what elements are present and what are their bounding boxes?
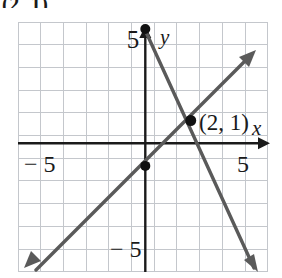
x-tick-label-neg5: − 5 <box>24 151 56 177</box>
y-axis-label: y <box>158 25 170 49</box>
plot-background <box>18 22 268 272</box>
y-tick-label-neg5: − 5 <box>110 236 142 262</box>
point-y-intercept-5 <box>140 24 150 34</box>
x-axis-label: x <box>251 116 262 140</box>
point-intersection <box>185 115 196 126</box>
y-tick-label-5: 5 <box>127 26 140 53</box>
point-y-intercept-neg1 <box>140 161 150 171</box>
coordinate-plane-graph: 5 y − 5 5 − 5 x (2, 1) <box>0 0 282 278</box>
figure-container: (2, 1) <box>0 0 282 278</box>
x-tick-label-5: 5 <box>237 151 249 177</box>
point-annotation-label: (2, 1) <box>199 110 249 135</box>
